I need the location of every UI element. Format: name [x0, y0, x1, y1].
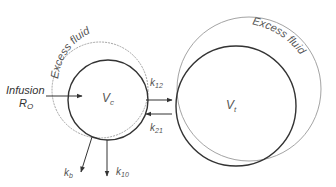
- k10-label: k10: [116, 166, 129, 178]
- transfer-arrows: k12 k21: [146, 77, 172, 134]
- diagram-canvas: Excess fluid Vc Excess fluid Vt Infusion…: [0, 0, 336, 187]
- k12-label: k12: [150, 77, 163, 89]
- central-volume-label: Vc: [102, 91, 114, 107]
- central-compartment: Excess fluid Vc: [48, 24, 148, 140]
- peripheral-volume-label: Vt: [226, 98, 237, 114]
- kb-label: kb: [64, 167, 73, 179]
- central-excess-label: Excess fluid: [48, 24, 92, 80]
- infusion-rate-label: RO: [19, 97, 33, 111]
- infusion-input: Infusion RO: [6, 84, 82, 111]
- peripheral-compartment: Excess fluid Vt: [176, 15, 321, 166]
- kb-arrow: [81, 137, 92, 172]
- elimination-arrows: kb k10: [64, 137, 129, 179]
- k21-label: k21: [150, 122, 163, 134]
- infusion-label: Infusion: [6, 84, 45, 96]
